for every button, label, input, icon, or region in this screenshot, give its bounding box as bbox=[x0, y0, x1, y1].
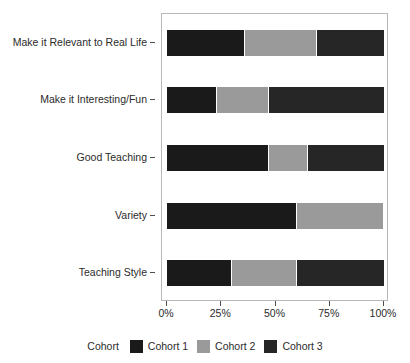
bar-track bbox=[167, 145, 384, 171]
bar-segment-cohort-1 bbox=[167, 145, 269, 171]
bar-segment-cohort-3 bbox=[297, 260, 384, 286]
legend-label: Cohort 1 bbox=[148, 340, 188, 352]
bar-segment-cohort-3 bbox=[317, 30, 384, 56]
legend-title: Cohort bbox=[87, 340, 119, 352]
bar-segment-cohort-2 bbox=[232, 260, 297, 286]
y-axis-tick bbox=[150, 272, 155, 273]
x-axis-tick bbox=[383, 301, 384, 306]
legend-swatch-icon bbox=[130, 340, 143, 353]
x-axis: 0%25%50%75%100% bbox=[161, 301, 388, 327]
bar-track bbox=[167, 203, 384, 229]
bar-segment-cohort-1 bbox=[167, 30, 245, 56]
legend-swatch-icon bbox=[197, 340, 210, 353]
y-axis-tick bbox=[150, 215, 155, 216]
stacked-bar-chart-figure: Make it Relevant to Real LifeMake it Int… bbox=[0, 0, 410, 363]
legend-entry[interactable]: Cohort 3 bbox=[264, 340, 322, 353]
legend-entry[interactable]: Cohort 2 bbox=[197, 340, 255, 353]
bar-segment-cohort-2 bbox=[297, 203, 384, 229]
bar-row bbox=[167, 87, 384, 113]
bar-row bbox=[167, 203, 384, 229]
x-axis-label: 25% bbox=[210, 307, 231, 319]
y-axis-label: Variety bbox=[115, 208, 147, 222]
x-axis-tick bbox=[166, 301, 167, 306]
bar-segment-cohort-2 bbox=[217, 87, 269, 113]
chart-legend: Cohort Cohort 1Cohort 2Cohort 3 bbox=[0, 336, 410, 356]
bar-segment-cohort-3 bbox=[269, 87, 384, 113]
bar-segment-cohort-2 bbox=[245, 30, 317, 56]
plot-area bbox=[161, 13, 388, 301]
legend-entry[interactable]: Cohort 1 bbox=[130, 340, 188, 353]
y-axis-tick bbox=[150, 42, 155, 43]
x-axis-label: 0% bbox=[158, 307, 173, 319]
y-axis-label: Make it Interesting/Fun bbox=[40, 92, 147, 106]
bar-track bbox=[167, 87, 384, 113]
x-axis-label: 50% bbox=[264, 307, 285, 319]
legend-label: Cohort 3 bbox=[282, 340, 322, 352]
bar-segment-cohort-1 bbox=[167, 203, 297, 229]
bar-track bbox=[167, 30, 384, 56]
x-axis-tick bbox=[275, 301, 276, 306]
x-axis-label: 75% bbox=[318, 307, 339, 319]
bar-row bbox=[167, 145, 384, 171]
x-axis-tick bbox=[329, 301, 330, 306]
bar-row bbox=[167, 30, 384, 56]
y-axis-tick bbox=[150, 157, 155, 158]
bar-segment-cohort-2 bbox=[269, 145, 308, 171]
bar-row bbox=[167, 260, 384, 286]
legend-label: Cohort 2 bbox=[215, 340, 255, 352]
y-axis-label: Teaching Style bbox=[79, 265, 147, 279]
bar-segment-cohort-3 bbox=[308, 145, 384, 171]
y-axis-label: Make it Relevant to Real Life bbox=[13, 35, 147, 49]
y-axis-label: Good Teaching bbox=[77, 150, 147, 164]
y-axis: Make it Relevant to Real LifeMake it Int… bbox=[0, 13, 155, 301]
legend-swatch-icon bbox=[264, 340, 277, 353]
x-axis-tick bbox=[220, 301, 221, 306]
y-axis-tick bbox=[150, 99, 155, 100]
x-axis-label: 100% bbox=[370, 307, 397, 319]
bar-segment-cohort-1 bbox=[167, 260, 232, 286]
bar-segment-cohort-1 bbox=[167, 87, 217, 113]
bar-track bbox=[167, 260, 384, 286]
